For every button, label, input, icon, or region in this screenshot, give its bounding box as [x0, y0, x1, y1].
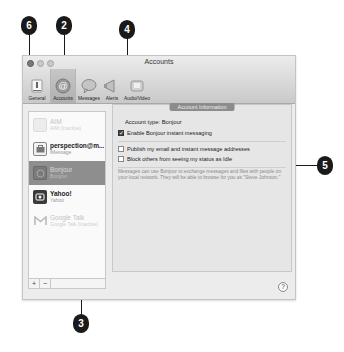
- bonjour-description: Messages can use Bonjour to exchange mes…: [118, 169, 283, 182]
- enable-bonjour-checkbox[interactable]: ✓: [118, 130, 124, 136]
- remove-account-button[interactable]: −: [40, 279, 51, 288]
- account-information-panel: Account Information Account type: Bonjou…: [112, 104, 292, 272]
- block-idle-status-label: Block others from seeing my status as Id…: [127, 156, 232, 162]
- preferences-toolbar: General @ Accounts Messages Alerts: [24, 69, 152, 103]
- gmail-icon: [33, 214, 47, 228]
- account-type-value: Bonjour: [162, 119, 182, 125]
- callout-3: 3: [73, 314, 89, 333]
- block-idle-status-checkbox[interactable]: [118, 156, 124, 162]
- account-item-bonjour[interactable]: Bonjour Bonjour: [29, 161, 105, 185]
- tab-general-label: General: [28, 96, 45, 101]
- block-idle-status-row[interactable]: Block others from seeing my status as Id…: [118, 156, 232, 162]
- account-list-actions: + −: [29, 278, 105, 288]
- callout-4: 4: [119, 20, 135, 39]
- account-status: AIM (Inactive): [50, 126, 81, 132]
- accounts-preferences-window: Accounts General @ Accounts Messages: [22, 55, 296, 300]
- imessage-icon: [33, 142, 47, 156]
- enable-bonjour-row[interactable]: ✓ Enable Bonjour instant messaging: [118, 130, 212, 136]
- account-status: iMessage: [50, 150, 104, 156]
- account-status: Google Talk (Inactive): [50, 222, 98, 228]
- divider: [118, 167, 286, 168]
- account-item-imessage[interactable]: perspection@m... iMessage: [29, 137, 105, 161]
- tab-accounts-label: Accounts: [53, 96, 73, 101]
- window-title: Accounts: [23, 58, 295, 65]
- account-item-google-talk[interactable]: Google Talk Google Talk (Inactive): [29, 209, 105, 233]
- at-sign-icon: @: [55, 78, 71, 94]
- add-account-button[interactable]: +: [29, 279, 40, 288]
- svg-text:@: @: [58, 81, 67, 91]
- tab-alerts[interactable]: Alerts: [102, 69, 122, 103]
- publish-addresses-checkbox[interactable]: [118, 146, 124, 152]
- divider: [118, 141, 286, 142]
- general-switch-icon: [29, 78, 45, 94]
- tab-alerts-label: Alerts: [106, 96, 118, 101]
- account-status: Bonjour: [50, 174, 72, 180]
- tab-accounts[interactable]: @ Accounts: [50, 69, 76, 103]
- accounts-list: AIM AIM (Inactive) perspection@m... iMes…: [28, 111, 106, 289]
- publish-addresses-row[interactable]: Publish my email and instant message add…: [118, 146, 250, 152]
- tab-audio-video-label: Audio/Video: [124, 96, 150, 101]
- callout-5: 5: [317, 156, 333, 175]
- megaphone-icon: [104, 78, 120, 94]
- enable-bonjour-label: Enable Bonjour instant messaging: [127, 130, 212, 136]
- callout-6: 6: [21, 16, 37, 35]
- aim-icon: [33, 118, 47, 132]
- title-bar: Accounts General @ Accounts Messages: [23, 56, 295, 104]
- account-status: Yahoo: [50, 198, 72, 204]
- account-type-label: Account type:: [125, 119, 160, 125]
- callout-2: 2: [56, 16, 72, 35]
- account-item-aim[interactable]: AIM AIM (Inactive): [29, 113, 105, 137]
- tab-account-information[interactable]: Account Information: [170, 103, 235, 111]
- speech-bubble-icon: [81, 78, 97, 94]
- help-button[interactable]: ?: [278, 282, 288, 292]
- tab-general[interactable]: General: [24, 69, 50, 103]
- tab-audio-video[interactable]: Audio/Video: [122, 69, 152, 103]
- tab-messages-label: Messages: [78, 96, 100, 101]
- account-type: Account type: Bonjour: [125, 119, 182, 125]
- bonjour-icon: [33, 166, 47, 180]
- video-camera-icon: [129, 78, 145, 94]
- publish-addresses-label: Publish my email and instant message add…: [127, 146, 250, 152]
- account-item-yahoo[interactable]: Yahoo! Yahoo: [29, 185, 105, 209]
- tab-messages[interactable]: Messages: [76, 69, 102, 103]
- yahoo-icon: [33, 190, 47, 204]
